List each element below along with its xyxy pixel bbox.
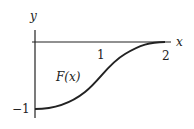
- y-axis-label: y: [29, 9, 37, 23]
- x-axis-label: x: [176, 35, 183, 49]
- y-tick-label-neg1: −1: [12, 102, 30, 116]
- curve-label: F(x): [55, 70, 81, 84]
- x-tick-label-2: 2: [162, 49, 170, 63]
- x-tick-label-1: 1: [97, 48, 105, 62]
- function-graph: y x 1 2 −1 F(x): [0, 0, 194, 129]
